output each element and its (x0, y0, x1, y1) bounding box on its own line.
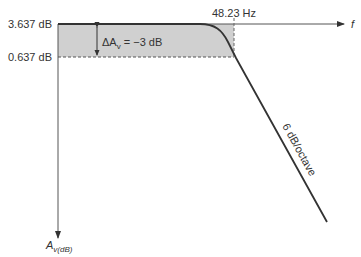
gain-axis-label: Av(dB) (45, 239, 73, 254)
cutoff-label: 48.23 Hz (212, 7, 256, 19)
tick-label-bottom: 0.637 dB (8, 51, 52, 63)
frequency-axis-label: f (351, 18, 355, 30)
bode-diagram: 3.637 dB 0.637 dB 48.23 Hz f ΔAv = −3 dB… (0, 0, 361, 257)
tick-label-top: 3.637 dB (8, 18, 52, 30)
